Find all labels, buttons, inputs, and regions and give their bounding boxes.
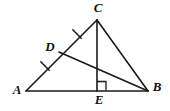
vertex-label-e: E bbox=[94, 92, 104, 107]
vertex-label-a: A bbox=[12, 82, 22, 97]
geometry-diagram: A B C D E bbox=[0, 0, 170, 111]
right-angle-marker-e bbox=[97, 82, 106, 91]
tick-mark-ad bbox=[41, 62, 49, 70]
segment-ac bbox=[26, 20, 97, 91]
vertex-label-c: C bbox=[94, 0, 103, 15]
vertex-label-d: D bbox=[44, 39, 55, 54]
vertex-label-b: B bbox=[152, 79, 162, 94]
tick-mark-dc bbox=[73, 30, 81, 38]
